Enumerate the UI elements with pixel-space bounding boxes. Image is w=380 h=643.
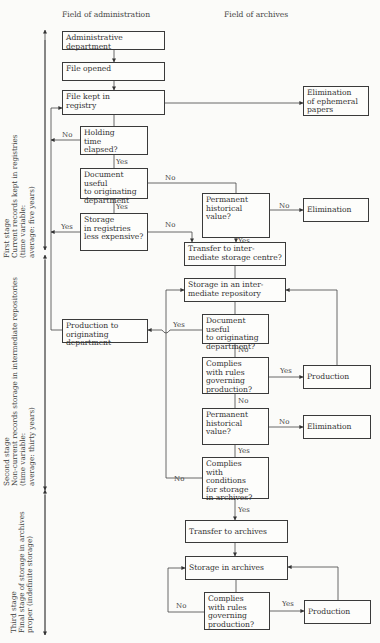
node-production-3: Production xyxy=(304,600,371,624)
node-file-kept-in-registry: File kept in registry xyxy=(62,90,165,115)
decision-transfer-intermediate: Transfer to inter- mediate storage centr… xyxy=(184,242,286,266)
edge-label-perm1-yes: Yes xyxy=(238,237,250,245)
header-field-of-archives: Field of archives xyxy=(224,10,288,19)
decision-holding-time-elapsed: Holding time elapsed? xyxy=(80,126,148,155)
edge-label-doc1-no: No xyxy=(165,174,175,182)
node-storage-intermediate: Storage in an inter- mediate repository xyxy=(184,278,286,302)
node-text: elapsed? xyxy=(84,146,144,155)
node-text: in archives? xyxy=(206,494,265,503)
node-text: less expensive? xyxy=(84,233,144,242)
node-production-originating: Production to originating department xyxy=(62,319,148,343)
node-text: Administrative department xyxy=(66,34,161,51)
node-text: Storage in archives xyxy=(189,564,284,573)
stage-third-duration: proper (indefinite storage) xyxy=(26,511,34,633)
node-text: Production xyxy=(307,373,367,382)
edge-label-storreg-yes: Yes xyxy=(61,223,73,231)
node-administrative-department: Administrative department xyxy=(62,31,165,50)
header-field-of-administration: Field of administration xyxy=(62,10,150,19)
node-text: department? xyxy=(206,343,265,352)
stage-label-third: Third stage Final stage of storage in ar… xyxy=(10,511,35,633)
node-text: production? xyxy=(208,621,266,630)
stage-first-average: average: five years) xyxy=(28,134,36,258)
node-text: Document useful xyxy=(206,317,265,334)
node-elimination-1: Elimination xyxy=(303,198,369,222)
decision-complies-rules-3: Complies with rules governing production… xyxy=(204,592,270,630)
edge-label-storreg-no: No xyxy=(165,221,175,229)
node-text: value? xyxy=(206,213,266,222)
edge-label-perm1-no: No xyxy=(279,202,289,210)
decision-storage-registries: Storage in registries less expensive? xyxy=(80,213,148,251)
node-production-2: Production xyxy=(303,365,371,389)
node-transfer-archives: Transfer to archives xyxy=(185,520,288,543)
node-text: mediate storage centre? xyxy=(188,254,282,263)
node-text: with conditions xyxy=(206,469,265,486)
edge-label-holding-no: No xyxy=(62,131,72,139)
node-text: production? xyxy=(206,386,265,395)
node-text: value? xyxy=(206,428,265,437)
node-text: papers xyxy=(307,106,365,115)
node-text: Transfer to archives xyxy=(189,528,284,537)
node-storage-archives: Storage in archives xyxy=(185,556,288,580)
stage-label-first: First stage Current records kept in regi… xyxy=(3,134,36,258)
decision-document-useful-2: Document useful to originating departmen… xyxy=(202,314,269,344)
node-file-opened: File opened xyxy=(62,62,165,81)
edge-label-comp2-yes: Yes xyxy=(280,367,292,375)
stage-label-second: Second stage Non-current records storage… xyxy=(3,277,36,486)
edge-label-cond-yes: Yes xyxy=(238,506,250,514)
edge-label-holding-yes: Yes xyxy=(116,158,128,166)
decision-permanent-historical-1: Permanent historical value? xyxy=(202,193,270,238)
decision-complies-conditions: Complies with conditions for storage in … xyxy=(202,457,269,499)
edge-label-cond-no: No xyxy=(174,475,184,483)
stage-second-average: average: thirty years) xyxy=(28,277,36,486)
node-elimination-2: Elimination xyxy=(303,415,371,439)
node-text: mediate repository xyxy=(188,290,282,299)
node-text: File opened xyxy=(66,65,161,74)
edge-label-perm2-yes: Yes xyxy=(238,447,250,455)
node-text: Production xyxy=(308,608,367,617)
node-text: registry xyxy=(66,102,161,111)
edge-label-doc1-yes: Yes xyxy=(116,203,128,211)
decision-permanent-historical-2: Permanent historical value? xyxy=(202,408,269,445)
edge-label-comp3-yes: Yes xyxy=(282,600,294,608)
node-text: Document useful xyxy=(84,171,144,188)
node-text: originating department xyxy=(66,331,144,348)
edge-label-comp2-no: No xyxy=(238,397,248,405)
edge-label-comp3-no: No xyxy=(176,602,186,610)
node-elimination-ephemeral: Elimination of ephemeral papers xyxy=(303,86,369,116)
decision-complies-rules-2: Complies with rules governing production… xyxy=(202,357,269,394)
edge-label-perm2-no: No xyxy=(279,418,289,426)
edge-label-doc2-yes: Yes xyxy=(173,321,185,329)
decision-document-useful-1: Document useful to originating departmen… xyxy=(80,168,148,199)
edge-label-doc2-no: No xyxy=(238,346,248,354)
node-text: department xyxy=(84,197,144,206)
node-text: Elimination xyxy=(307,423,367,432)
node-text: Elimination xyxy=(307,206,365,215)
